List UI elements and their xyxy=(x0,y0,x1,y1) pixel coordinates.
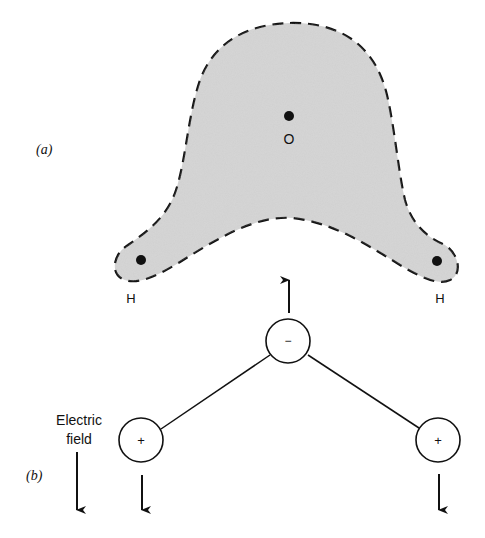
hydrogen-left-label: H xyxy=(126,291,135,306)
positive-charge-right-sign: + xyxy=(434,433,442,448)
bond-right xyxy=(308,355,419,428)
panel-b-label: (b) xyxy=(26,468,43,484)
electric-field-label-line1: Electric xyxy=(56,412,102,428)
hydrogen-left-dot xyxy=(136,255,146,265)
oxygen-label: O xyxy=(284,131,295,147)
positive-charge-left-sign: + xyxy=(137,433,145,448)
negative-charge-sign: − xyxy=(284,334,291,348)
panel-a-label: (a) xyxy=(36,142,53,158)
bond-left xyxy=(161,355,270,429)
hydrogen-right-label: H xyxy=(435,291,444,306)
electric-field-label-line2: field xyxy=(66,431,92,447)
electron-cloud xyxy=(115,23,458,282)
hydrogen-right-dot xyxy=(432,256,442,266)
oxygen-atom-dot xyxy=(284,111,294,121)
water-molecule-diagram: (a) O H H − + + Electric field (b) xyxy=(0,0,485,538)
